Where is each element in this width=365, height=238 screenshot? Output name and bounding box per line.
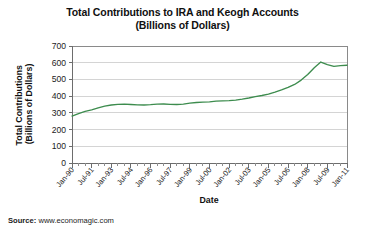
x-tick-label: Jul-09 — [311, 166, 331, 188]
x-tick-label: Jul-00 — [193, 166, 213, 188]
chart-title: Total Contributions to IRA and Keogh Acc… — [0, 6, 365, 31]
chart-title-line-2: (Billions of Dollars) — [0, 19, 365, 32]
x-tick-label: Jul-06 — [272, 166, 292, 188]
y-tick-label: 700 — [52, 41, 67, 51]
x-tick-label: Jan-11 — [330, 166, 351, 189]
x-tick-label: Jul-97 — [154, 166, 174, 188]
line-chart-plot: 0100200300400500600700 Jan-90Jul-91Jan-9… — [0, 0, 365, 210]
x-tick-label: Jul-03 — [233, 166, 253, 188]
y-tick-label: 200 — [52, 125, 67, 135]
source-note: Source: www.economagic.com — [8, 216, 114, 225]
x-tick-label: Jan-99 — [172, 166, 194, 190]
x-tick-label: Jan-90 — [54, 166, 76, 190]
source-value: www.economagic.com — [36, 216, 114, 225]
x-tick-label: Jan-93 — [93, 166, 115, 190]
y-tick-label: 300 — [52, 108, 67, 118]
x-tick-label: Jan-05 — [251, 166, 273, 190]
source-label: Source: — [8, 216, 36, 225]
y-axis-ticks: 0100200300400500600700 — [52, 41, 72, 168]
x-axis-title: Date — [199, 195, 218, 205]
x-tick-label: Jul-91 — [75, 166, 95, 188]
x-tick-label: Jul-94 — [115, 166, 135, 188]
y-tick-label: 400 — [52, 91, 67, 101]
y-tick-label: 600 — [52, 58, 67, 68]
chart-title-line-1: Total Contributions to IRA and Keogh Acc… — [0, 6, 365, 19]
x-tick-label: Jan-96 — [133, 166, 155, 190]
y-tick-label: 500 — [52, 74, 67, 84]
x-axis-ticks: Jan-90Jul-91Jan-93Jul-94Jan-96Jul-97Jan-… — [54, 163, 351, 189]
x-tick-label: Jan-02 — [211, 166, 233, 190]
y-axis-title: Total Contributions (Billions of Dollars… — [14, 63, 34, 146]
chart-figure: Total Contributions to IRA and Keogh Acc… — [0, 0, 365, 238]
x-tick-label: Jan-08 — [290, 166, 312, 190]
y-tick-label: 0 — [61, 158, 66, 168]
y-tick-label: 100 — [52, 141, 67, 151]
